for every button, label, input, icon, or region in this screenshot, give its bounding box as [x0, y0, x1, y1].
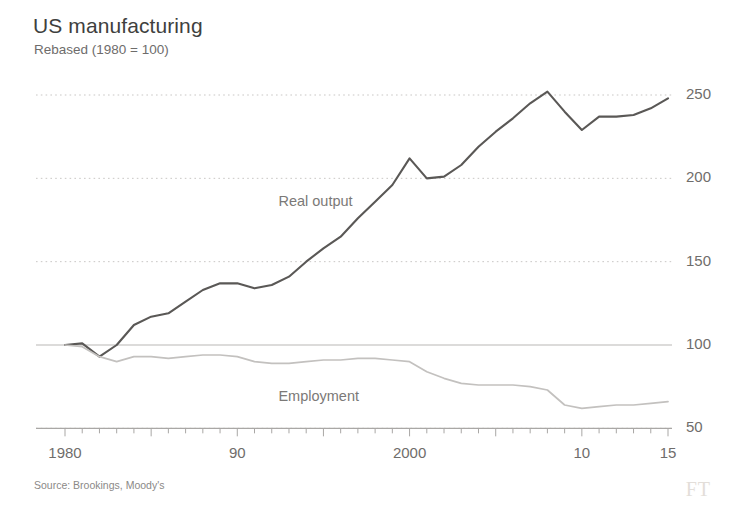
chart-page: US manufacturing Rebased (1980 = 100) So… [0, 0, 729, 505]
y-axis-tick-label: 150 [686, 252, 711, 269]
x-axis-tick-label: 90 [197, 444, 277, 461]
chart-plot-area [0, 0, 729, 505]
series-line-real-output [65, 92, 668, 357]
y-axis-tick-label: 100 [686, 335, 711, 352]
y-axis-tick-label: 250 [686, 85, 711, 102]
x-axis-tick-label: 2000 [370, 444, 450, 461]
x-axis-tick-label: 10 [542, 444, 622, 461]
x-axis-tick-label: 1980 [25, 444, 105, 461]
x-axis-tick-label: 15 [628, 444, 708, 461]
series-annotation-employment: Employment [278, 388, 359, 404]
series-line-employment [65, 345, 668, 408]
y-axis-tick-label: 50 [686, 418, 703, 435]
series-annotation-real-output: Real output [278, 193, 352, 209]
line-chart-svg [0, 0, 729, 505]
ft-logo: FT [686, 478, 711, 501]
source-note: Source: Brookings, Moody's [34, 479, 164, 491]
y-axis-tick-label: 200 [686, 168, 711, 185]
